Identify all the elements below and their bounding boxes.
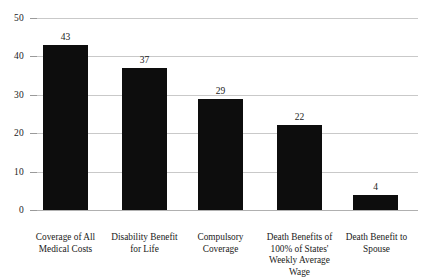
cat-line: 100% of States' xyxy=(255,244,344,256)
cat-line: Death Benefits of xyxy=(255,232,344,244)
cat-line: Wage xyxy=(255,267,344,278)
cat-line: Coverage xyxy=(176,244,265,256)
bar-death-benefits-100-percent-state-weekly-average-wage[interactable] xyxy=(277,125,322,210)
bar-death-benefit-to-spouse[interactable] xyxy=(353,195,398,210)
y-tick-label-10: 10 xyxy=(14,167,24,177)
bar-coverage-of-all-medical-costs[interactable] xyxy=(43,45,88,210)
tick-mark-10 xyxy=(30,172,37,173)
bar-disability-benefit-for-life[interactable] xyxy=(122,68,167,210)
x-category-label-death-benefit-to-spouse: Death Benefit to Spouse xyxy=(332,232,421,255)
bar-value-label-29: 29 xyxy=(198,86,243,97)
x-category-label-coverage-of-all-medical-costs: Coverage of All Medical Costs xyxy=(21,232,110,255)
axis-baseline xyxy=(37,210,418,211)
cat-line: Medical Costs xyxy=(21,244,110,256)
cat-line: Compulsory xyxy=(176,232,265,244)
tick-mark-50 xyxy=(30,18,37,19)
tick-mark-0 xyxy=(30,210,37,211)
gridline-40 xyxy=(37,56,418,57)
x-category-label-compulsory-coverage: Compulsory Coverage xyxy=(176,232,265,255)
tick-mark-20 xyxy=(30,133,37,134)
cat-line: Death Benefit to xyxy=(332,232,421,244)
cat-line: Weekly Average xyxy=(255,255,344,267)
tick-mark-30 xyxy=(30,95,37,96)
cat-line: Spouse xyxy=(332,244,421,256)
bar-compulsory-coverage[interactable] xyxy=(198,99,243,210)
y-tick-label-30: 30 xyxy=(14,90,24,100)
bar-value-label-37: 37 xyxy=(122,55,167,66)
y-tick-label-50: 50 xyxy=(14,13,24,23)
y-tick-label-20: 20 xyxy=(14,128,24,138)
y-tick-label-0: 0 xyxy=(19,205,24,215)
bar-value-label-22: 22 xyxy=(277,112,322,123)
plot-area: 43 37 29 22 4 Coverage of All Medical Co… xyxy=(37,18,418,210)
gridline-50 xyxy=(37,18,418,19)
bar-value-label-43: 43 xyxy=(43,32,88,43)
x-category-label-death-benefits-100-percent-state-weekly-average-wage: Death Benefits of 100% of States' Weekly… xyxy=(255,232,344,278)
tick-mark-40 xyxy=(30,56,37,57)
y-tick-label-40: 40 xyxy=(14,51,24,61)
cat-line: Coverage of All xyxy=(21,232,110,244)
bar-value-label-4: 4 xyxy=(353,182,398,193)
